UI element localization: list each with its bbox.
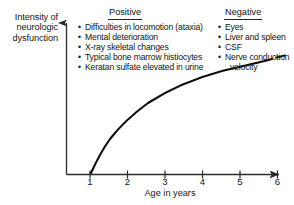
bullet-icon: • [218, 52, 221, 62]
negative-item-2: Liver and spleen [225, 32, 286, 42]
bullet-icon: • [78, 52, 81, 62]
x-tick-label-5: 5 [232, 176, 248, 187]
positive-header-text: Positive [108, 7, 142, 20]
negative-item-4: Nerve conduction [225, 52, 289, 62]
bullet-icon: • [218, 32, 221, 42]
bullet-icon: • [218, 22, 221, 32]
positive-item-4: Typical bone marrow histiocytes [85, 52, 202, 62]
positive-item-3: X-ray skeletal changes [85, 42, 169, 52]
data-curve [91, 59, 272, 173]
y-axis-title-line-3: dysfunction [0, 33, 58, 43]
annotation-column-negative: Negative •Eyes •Liver and spleen •CSF •N… [218, 7, 294, 72]
bullet-icon: • [218, 42, 221, 52]
list-item: •CSF [218, 42, 294, 52]
list-item: •X-ray skeletal changes [78, 42, 208, 52]
list-item: •Eyes [218, 22, 294, 32]
x-tick-label-3: 3 [157, 176, 173, 187]
y-axis-title-line-1: Intensity of [0, 12, 58, 22]
negative-header: Negative [218, 7, 294, 20]
x-tick-label-2: 2 [120, 176, 136, 187]
positive-item-5: Keratan sulfate elevated in urine [85, 62, 203, 72]
x-axis-ticks [90, 171, 278, 179]
negative-header-text: Negative [224, 7, 262, 20]
list-item: •Difficulties in locomotion (ataxia) [78, 22, 208, 32]
positive-list: •Difficulties in locomotion (ataxia) •Me… [78, 22, 208, 72]
x-tick-label-1: 1 [82, 176, 98, 187]
bullet-icon: • [78, 32, 81, 42]
y-axis-title: Intensity of neurologic dysfunction [0, 12, 58, 43]
x-tick-label-6: 6 [270, 176, 286, 187]
positive-header: Positive [78, 7, 208, 20]
y-axis-title-line-2: neurologic [0, 22, 58, 32]
figure-container: Intensity of neurologic dysfunction [0, 0, 294, 205]
positive-item-1: Difficulties in locomotion (ataxia) [85, 22, 203, 32]
annotation-column-positive: Positive •Difficulties in locomotion (at… [78, 7, 208, 72]
x-axis-title: Age in years [110, 188, 230, 199]
negative-item-4-continuation: velocity [225, 62, 294, 72]
x-tick-label-4: 4 [195, 176, 211, 187]
list-item: •Typical bone marrow histiocytes [78, 52, 208, 62]
negative-item-3: CSF [225, 42, 242, 52]
list-item: •Keratan sulfate elevated in urine [78, 62, 208, 72]
negative-item-1: Eyes [225, 22, 244, 32]
list-item: •Liver and spleen [218, 32, 294, 42]
bullet-icon: • [78, 22, 81, 32]
list-item: •Mental deterioration [78, 32, 208, 42]
negative-list: •Eyes •Liver and spleen •CSF •Nerve cond… [218, 22, 294, 72]
positive-item-2: Mental deterioration [85, 32, 158, 42]
bullet-icon: • [78, 42, 81, 52]
list-item: •Nerve conductionvelocity [218, 52, 294, 72]
bullet-icon: • [78, 62, 81, 72]
